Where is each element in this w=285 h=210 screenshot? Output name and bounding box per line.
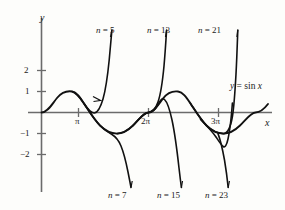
plot-canvas (0, 0, 285, 210)
y-tick-label-1: 1 (25, 87, 30, 96)
curve-n5 (72, 30, 112, 113)
curve-label-n21-value: 21 (212, 25, 221, 35)
leader-n15 (181, 181, 182, 188)
curve-label-n13-eq: = (152, 25, 162, 35)
curve-label-n23-eq: = (210, 190, 220, 200)
curve-label-n13: n = 13 (147, 26, 170, 35)
curve-label-n5-value: 5 (110, 25, 115, 35)
x-axis-label: x (265, 118, 269, 128)
taylor-series-figure: y x 2 1 −1 −2 π 2π 3π y = sin x n = 5 n … (0, 0, 285, 210)
curve-label-n7-eq: = (113, 190, 123, 200)
curve-label-n23: n = 23 (205, 191, 228, 200)
curve-label-n15-eq: = (162, 190, 172, 200)
leader-n7 (131, 181, 132, 188)
curve-label-n23-value: 23 (219, 190, 228, 200)
n5-join-marker (93, 97, 101, 102)
curve-label-n21: n = 21 (198, 26, 221, 35)
curve-label-n15-value: 15 (171, 190, 180, 200)
sine-function-label: y = sin x (230, 82, 262, 92)
curve-label-n7: n = 7 (108, 191, 127, 200)
curve-label-n5: n = 5 (96, 26, 115, 35)
curve-n7 (84, 104, 131, 188)
curve-label-n15: n = 15 (157, 191, 180, 200)
y-axis-label: y (40, 13, 44, 23)
x-tick-label-2pi: 2π (141, 117, 150, 126)
y-tick-label-2: 2 (24, 66, 29, 75)
curve-label-n21-eq: = (203, 25, 213, 35)
x-tick-label-pi: π (75, 117, 80, 126)
curve-label-n5-eq: = (101, 25, 111, 35)
y-tick-label-neg1: −1 (20, 129, 30, 138)
curve-label-n13-value: 13 (161, 25, 170, 35)
x-tick-label-3pi: 3π (211, 117, 220, 126)
curve-label-n7-value: 7 (122, 190, 127, 200)
y-tick-label-neg2: −2 (20, 150, 30, 159)
sine-label-rhs: x (258, 81, 262, 91)
sine-label-eq: = sin (234, 81, 258, 91)
